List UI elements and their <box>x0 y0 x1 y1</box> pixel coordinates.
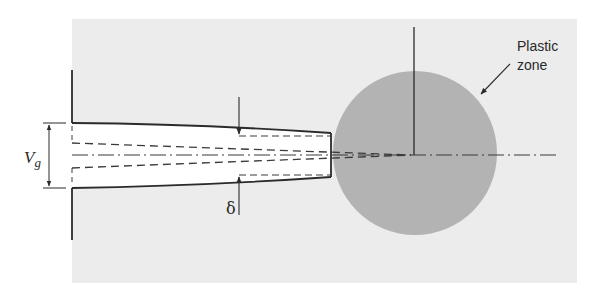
plastic-zone-label-line1: Plastic <box>517 38 558 54</box>
plastic-zone <box>333 71 497 235</box>
crack-diagram: Vg δ Plastic zone <box>0 0 593 293</box>
vg-subscript: g <box>34 155 41 170</box>
vg-label: Vg <box>24 148 41 170</box>
ctod-label: δ <box>226 199 236 218</box>
plastic-zone-label-line2: zone <box>517 57 548 73</box>
